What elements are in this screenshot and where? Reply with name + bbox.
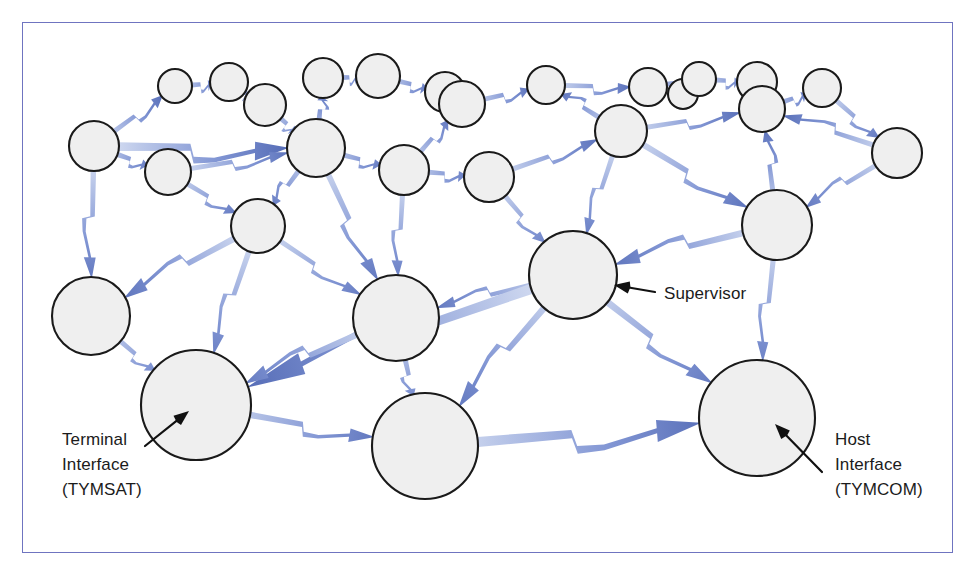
network-node[interactable] [303, 58, 343, 98]
network-node[interactable] [803, 69, 841, 107]
network-link [317, 96, 330, 120]
network-node[interactable] [231, 199, 285, 253]
network-node[interactable] [372, 393, 478, 499]
nodes-layer [52, 54, 922, 499]
network-link [484, 87, 530, 103]
network-link [399, 79, 428, 94]
network-node[interactable] [141, 350, 251, 460]
network-node[interactable] [739, 86, 785, 132]
network-link [477, 420, 701, 454]
network-link [113, 95, 163, 133]
network-node[interactable] [629, 68, 667, 106]
network-node[interactable] [379, 145, 429, 195]
network-link [186, 182, 236, 214]
network-link [419, 120, 449, 153]
network-node[interactable] [52, 277, 130, 355]
network-link [642, 142, 749, 208]
network-link [606, 300, 713, 384]
figure-root: SupervisorTerminalInterface(TYMSAT)HostI… [0, 0, 976, 581]
callout-leader-line [626, 287, 655, 292]
callout-label: Supervisor [664, 284, 746, 303]
network-link [614, 230, 744, 265]
network-node[interactable] [464, 152, 514, 202]
network-link [272, 170, 301, 206]
network-node[interactable] [287, 119, 345, 177]
network-link [805, 164, 877, 209]
network-node[interactable] [210, 63, 248, 101]
network-link [503, 195, 546, 244]
network-link [325, 173, 378, 281]
network-diagram-canvas: SupervisorTerminalInterface(TYMSAT)HostI… [0, 0, 976, 581]
network-node[interactable] [699, 360, 815, 476]
network-link [400, 359, 416, 396]
network-link [782, 114, 874, 147]
callout-supervisor: Supervisor [614, 282, 746, 303]
network-link [124, 236, 236, 299]
network-node[interactable] [872, 128, 922, 178]
network-node[interactable] [595, 105, 647, 157]
network-link [279, 239, 362, 295]
callout-label: HostInterface(TYMCOM) [835, 430, 923, 499]
network-node[interactable] [356, 54, 400, 98]
network-node[interactable] [529, 231, 617, 319]
network-link [429, 170, 466, 183]
network-link [716, 77, 739, 89]
network-node[interactable] [353, 275, 439, 361]
network-link [391, 195, 405, 277]
network-link [565, 83, 631, 95]
callout-label: TerminalInterface(TYMSAT) [62, 430, 142, 499]
network-link [783, 92, 806, 107]
network-link [835, 99, 880, 138]
network-link [458, 306, 546, 408]
network-node[interactable] [439, 81, 485, 127]
network-link [250, 412, 375, 442]
network-node[interactable] [158, 69, 192, 103]
network-link [763, 130, 779, 191]
network-link [512, 139, 599, 172]
network-node[interactable] [69, 121, 119, 171]
network-link [119, 340, 156, 371]
network-link [561, 92, 601, 119]
network-node[interactable] [742, 190, 812, 260]
network-link [245, 332, 358, 384]
network-node[interactable] [244, 84, 286, 126]
network-link [117, 152, 149, 170]
network-node[interactable] [527, 66, 565, 104]
network-node[interactable] [145, 149, 191, 195]
network-link [584, 155, 615, 235]
network-node[interactable] [682, 62, 716, 96]
network-link [82, 171, 96, 279]
network-link [757, 260, 776, 363]
network-link [646, 112, 741, 130]
network-link [344, 153, 382, 170]
network-link [213, 251, 252, 355]
